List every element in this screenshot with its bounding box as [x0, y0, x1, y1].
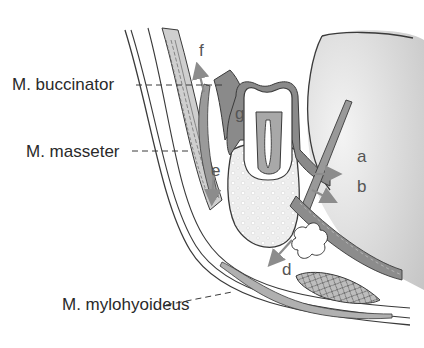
arrow-f — [198, 68, 204, 92]
letter-a: a — [357, 148, 366, 165]
label-buccinator: M. buccinator — [12, 76, 114, 93]
label-mylohyoideus: M. mylohyoideus — [62, 296, 190, 313]
letter-g: g — [235, 105, 244, 122]
label-masseter: M. masseter — [26, 143, 120, 160]
mylohyoid-muscle — [296, 272, 380, 303]
letter-b: b — [357, 178, 366, 195]
letter-d: d — [282, 261, 291, 278]
letter-e: e — [211, 162, 220, 179]
letter-f: f — [199, 42, 204, 59]
anatomy-diagram: M. buccinator M. masseter M. mylohyoideu… — [0, 0, 424, 348]
